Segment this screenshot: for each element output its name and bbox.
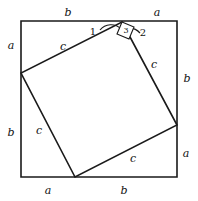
label-top-b: b [64,7,71,18]
angle-label-3: 3 [123,27,128,35]
label-bottom-b: b [120,185,127,196]
label-top-a: a [154,7,161,18]
label-hyp-c-bottomright: c [130,153,136,164]
label-hyp-c-bottomleft: c [36,125,42,136]
geometry-figure: b a a b b a a b c c c c 1 2 3 [0,0,198,201]
label-right-b: b [183,73,190,84]
angle-label-2: 2 [140,28,146,38]
label-bottom-a: a [45,185,52,196]
figure-canvas [0,0,198,201]
label-left-a: a [8,40,15,51]
label-left-b: b [7,127,14,138]
label-hyp-c-topleft: c [60,41,66,52]
label-hyp-c-topright: c [151,59,157,70]
angle-label-1: 1 [90,27,96,37]
label-right-a: a [183,148,190,159]
